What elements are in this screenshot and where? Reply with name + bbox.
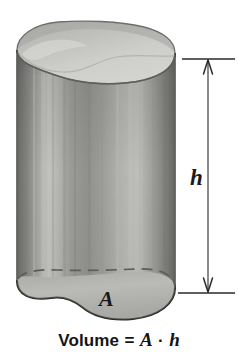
height-dimension [178,59,235,293]
figure-caption: Volume = A · h [0,330,238,349]
base-area-label: A [99,288,114,310]
caption-var-area: A [140,329,153,350]
halftone-grain [10,15,185,330]
caption-var-height: h [169,329,180,350]
caption-word-volume: Volume [58,331,119,350]
figure-container: A h Volume = A · h [0,0,238,353]
caption-multiplication-dot: · [157,331,165,350]
height-label: h [190,166,203,189]
caption-equals-sign: = [123,331,135,350]
